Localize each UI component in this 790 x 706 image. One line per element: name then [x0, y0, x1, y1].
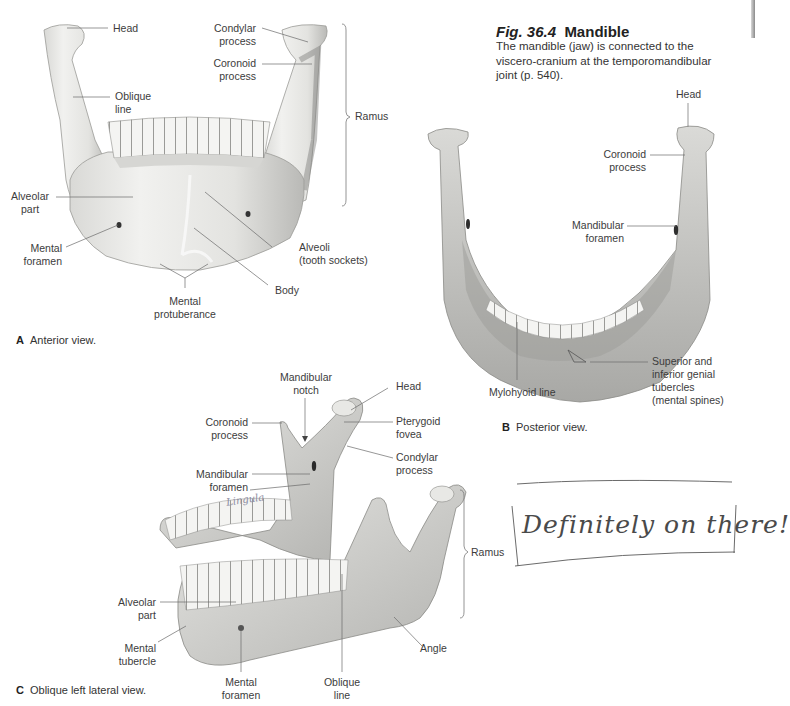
label-line-1: Pterygoid [396, 415, 440, 428]
figure-title: Fig. 36.4 Mandible [496, 23, 629, 40]
label-head-c: Head [396, 380, 421, 393]
caption-letter: A [16, 334, 24, 346]
label-mental-protuberance-a: Mental protuberance [150, 295, 220, 321]
label-line-1: Alveolar [6, 190, 54, 203]
label-line-2: foramen [216, 689, 266, 702]
mandible-anterior-illustration [44, 25, 327, 271]
label-line-2: protuberance [150, 308, 220, 321]
label-mental-foramen-c: Mental foramen [216, 676, 266, 702]
label-line-1: Oblique [115, 90, 151, 103]
caption-b: BPosterior view. [502, 421, 587, 433]
label-line-1: Alveoli [299, 241, 368, 254]
label-line-2: tubercle [108, 655, 156, 668]
label-mandibular-foramen-b: Mandibular foramen [566, 219, 624, 245]
label-line-1: Superior and [652, 355, 724, 368]
label-line-2: foramen [16, 255, 62, 268]
label-body-a: Body [275, 284, 299, 297]
label-line-1: Mental [216, 676, 266, 689]
label-line-2: process [200, 35, 256, 48]
label-angle-c: Angle [420, 642, 447, 655]
caption-text: Anterior view. [30, 334, 96, 346]
label-ramus-a: Ramus [355, 110, 388, 123]
caption-a: AAnterior view. [16, 334, 96, 346]
label-alveoli-a: Alveoli (tooth sockets) [299, 241, 368, 267]
label-line-1: Mandibular [566, 219, 624, 232]
label-line-2: notch [276, 384, 336, 397]
figure-number: Fig. 36.4 [496, 23, 556, 40]
label-line-1: Coronoid [200, 57, 256, 70]
caption-letter: B [502, 421, 510, 433]
label-line-2: fovea [396, 428, 440, 441]
label-mental-foramen-a: Mental foramen [16, 242, 62, 268]
label-line-1: Mandibular [190, 468, 248, 481]
label-line-2: (tooth sockets) [299, 254, 368, 267]
label-line-1: Mandibular [276, 371, 336, 384]
label-coronoid-process-c: Coronoid process [196, 416, 248, 442]
label-line-2: line [318, 689, 366, 702]
label-line-1: Oblique [318, 676, 366, 689]
label-mental-tubercle-c: Mental tubercle [108, 642, 156, 668]
label-line-1: Coronoid [196, 416, 248, 429]
label-coronoid-process-a: Coronoid process [200, 57, 256, 83]
figure-description: The mandible (jaw) is connected to the v… [496, 39, 726, 83]
label-condylar-process-a: Condylar process [200, 22, 256, 48]
label-line-1: Condylar [396, 451, 438, 464]
label-line-1: Mental [150, 295, 220, 308]
label-condylar-process-c: Condylar process [396, 451, 438, 477]
caption-text: Posterior view. [516, 421, 588, 433]
label-line-2: part [6, 203, 54, 216]
label-line-2: process [200, 70, 256, 83]
label-line-2: foramen [566, 232, 624, 245]
caption-c: COblique left lateral view. [16, 684, 146, 696]
label-mandibular-notch-c: Mandibular notch [276, 371, 336, 397]
label-ramus-c: Ramus [471, 546, 504, 559]
label-pterygoid-fovea-c: Pterygoid fovea [396, 415, 440, 441]
label-line-1: Alveolar [110, 596, 156, 609]
label-line-1: Coronoid [596, 148, 646, 161]
label-line-2: line [115, 103, 151, 116]
label-line-1: Mental [16, 242, 62, 255]
label-line-2: process [196, 429, 248, 442]
label-mylohyoid-line-b: Mylohyoid line [489, 386, 556, 399]
caption-letter: C [16, 684, 24, 696]
label-line-3: tubercles [652, 381, 724, 394]
label-head-a: Head [113, 22, 138, 35]
label-line-2: part [110, 609, 156, 622]
label-mandibular-foramen-c: Mandibular foramen [190, 468, 248, 494]
label-oblique-line-c: Oblique line [318, 676, 366, 702]
figure-name: Mandible [564, 23, 629, 40]
label-line-1: Condylar [200, 22, 256, 35]
handwritten-boxed-note: Definitely on there! [522, 510, 790, 539]
label-genial-tubercles-b: Superior and inferior genial tubercles (… [652, 355, 724, 407]
label-line-1: Mental [108, 642, 156, 655]
ramus-brace-lateral [460, 490, 468, 618]
label-head-b: Head [676, 88, 701, 101]
ramus-brace-anterior [342, 24, 350, 206]
label-alveolar-part-c: Alveolar part [110, 596, 156, 622]
label-line-2: inferior genial [652, 368, 724, 381]
caption-text: Oblique left lateral view. [30, 684, 146, 696]
label-coronoid-process-b: Coronoid process [596, 148, 646, 174]
label-alveolar-part-a: Alveolar part [6, 190, 54, 216]
label-line-2: process [396, 464, 438, 477]
label-line-2: foramen [190, 481, 248, 494]
label-line-2: process [596, 161, 646, 174]
label-line-4: (mental spines) [652, 394, 724, 407]
label-oblique-line-a: Oblique line [115, 90, 151, 116]
